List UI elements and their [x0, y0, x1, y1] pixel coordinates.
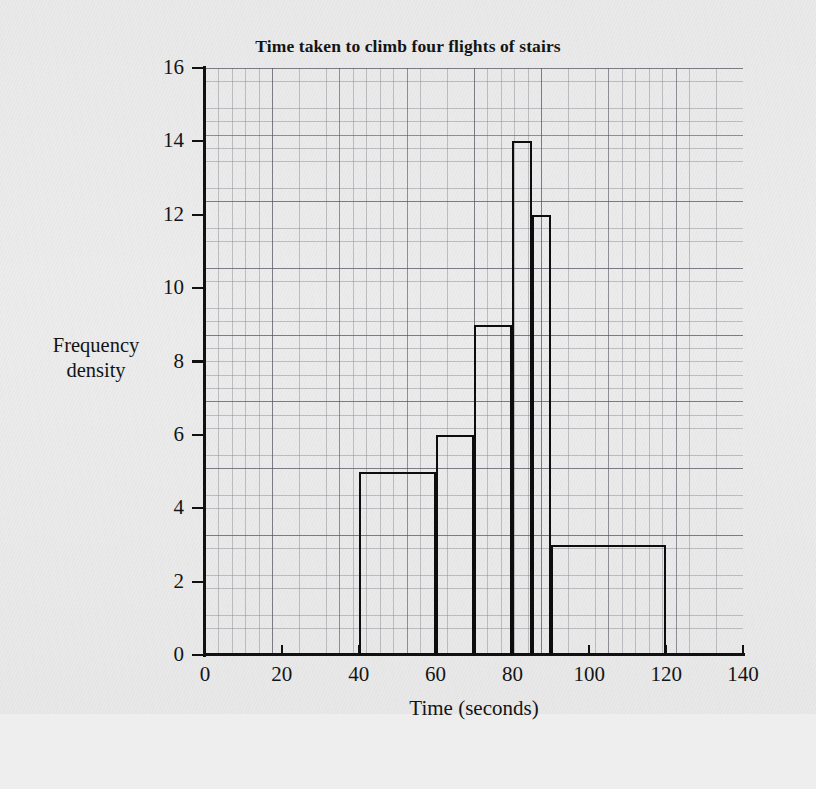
histogram-bar-90-120 [551, 545, 666, 655]
y-tick-10 [192, 287, 205, 289]
histogram-figure: Time taken to climb four flights of stai… [0, 0, 816, 789]
histogram-bar-40-60 [359, 472, 436, 655]
chart-title: Time taken to climb four flights of stai… [0, 36, 816, 57]
histogram-bar-70-80 [474, 325, 512, 655]
histogram-bar-60-70 [436, 435, 474, 655]
y-tick-2 [192, 581, 205, 583]
y-tick-label-6: 6 [140, 422, 184, 447]
y-axis-label: Frequency density [22, 333, 170, 383]
x-tick-label-20: 20 [247, 662, 317, 687]
y-tick-14 [192, 140, 205, 142]
x-axis-label: Time (seconds) [205, 696, 743, 721]
x-tick-label-120: 120 [631, 662, 701, 687]
y-tick-label-4: 4 [140, 495, 184, 520]
x-tick-label-60: 60 [401, 662, 471, 687]
x-tick-label-0: 0 [170, 662, 240, 687]
y-tick-label-2: 2 [140, 569, 184, 594]
y-tick-label-10: 10 [140, 275, 184, 300]
x-tick-label-80: 80 [477, 662, 547, 687]
y-axis-label-line2: density [22, 358, 170, 383]
y-tick-8 [192, 360, 205, 362]
y-tick-16 [192, 67, 205, 69]
y-tick-label-12: 12 [140, 202, 184, 227]
y-tick-6 [192, 434, 205, 436]
y-tick-12 [192, 214, 205, 216]
x-tick-label-140: 140 [708, 662, 778, 687]
histogram-bars [205, 68, 743, 655]
y-tick-label-16: 16 [140, 55, 184, 80]
y-tick-label-14: 14 [140, 128, 184, 153]
histogram-bar-80-85 [512, 141, 531, 655]
x-tick-label-40: 40 [324, 662, 394, 687]
x-tick-label-100: 100 [554, 662, 624, 687]
y-tick-4 [192, 507, 205, 509]
histogram-bar-85-90 [532, 215, 551, 655]
y-axis-label-line1: Frequency [22, 333, 170, 358]
